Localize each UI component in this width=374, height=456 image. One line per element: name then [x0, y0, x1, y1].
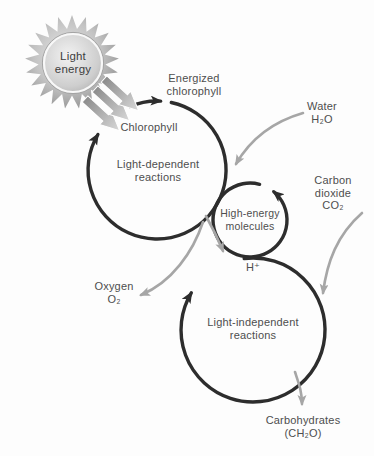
photosynthesis-diagram: Light energy Energized chlorophyll Chlor… [0, 0, 374, 456]
label-h-plus: H⁺ [241, 261, 265, 274]
label-carbohydrates: Carbohydrates (CH₂O) [248, 414, 358, 439]
label-chlorophyll: Chlorophyll [109, 121, 189, 134]
node-label-high-energy: High-energy molecules [205, 207, 295, 232]
node-label-light-independent: Light-independent reactions [193, 316, 313, 341]
label-water: Water H₂O [292, 100, 352, 125]
oxygen-flow-arrow [141, 222, 203, 295]
label-light-energy: Light energy [46, 50, 100, 76]
label-oxygen: Oxygen O₂ [84, 280, 144, 305]
co2-flow-arrow [323, 213, 362, 293]
label-carbon-dioxide: Carbon dioxide CO₂ [303, 174, 363, 212]
node-label-light-dependent: Light-dependent reactions [103, 158, 213, 183]
label-energized-chlorophyll: Energized chlorophyll [154, 72, 234, 97]
